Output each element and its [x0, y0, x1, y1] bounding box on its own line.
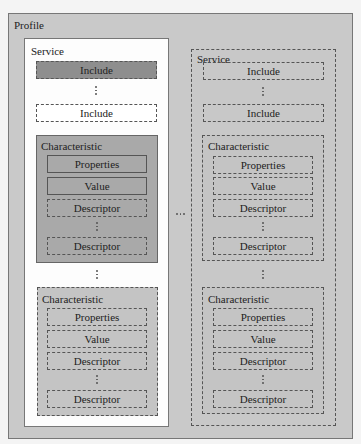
vertical-ellipsis-icon — [262, 270, 264, 281]
value-label: Value — [84, 180, 109, 192]
descriptor-box: Descriptor — [47, 390, 147, 408]
value-box: Value — [213, 177, 313, 195]
descriptor-label: Descriptor — [240, 355, 286, 367]
descriptor-label: Descriptor — [74, 393, 120, 405]
descriptor-box: Descriptor — [213, 352, 313, 370]
properties-label: Properties — [75, 158, 120, 170]
include-label: Include — [247, 65, 280, 77]
properties-label: Properties — [241, 311, 286, 323]
properties-box: Properties — [213, 308, 313, 326]
properties-box: Properties — [47, 155, 147, 173]
descriptor-label: Descriptor — [240, 393, 286, 405]
characteristic-label: Characteristic — [42, 293, 103, 305]
properties-box: Properties — [47, 308, 147, 326]
characteristic-label: Characteristic — [41, 140, 102, 152]
vertical-ellipsis-icon — [96, 375, 98, 386]
vertical-ellipsis-icon — [95, 86, 97, 97]
properties-box: Properties — [213, 156, 313, 174]
left-service-label: Service — [31, 45, 64, 57]
right-include-2: Include — [203, 104, 324, 122]
right-include-1: Include — [203, 62, 324, 80]
profile-label: Profile — [14, 19, 44, 31]
value-box: Value — [47, 177, 147, 195]
descriptor-box: Descriptor — [47, 352, 147, 370]
include-label: Include — [80, 107, 113, 119]
descriptor-box: Descriptor — [47, 237, 147, 255]
value-label: Value — [250, 180, 275, 192]
vertical-ellipsis-icon — [96, 222, 98, 233]
characteristic-label: Characteristic — [208, 140, 269, 152]
value-label: Value — [250, 333, 275, 345]
descriptor-box: Descriptor — [213, 199, 313, 217]
left-include-2: Include — [36, 104, 157, 122]
properties-label: Properties — [75, 311, 120, 323]
descriptor-label: Descriptor — [240, 240, 286, 252]
horizontal-ellipsis-icon — [176, 213, 185, 215]
vertical-ellipsis-icon — [262, 87, 264, 98]
value-box: Value — [213, 330, 313, 348]
vertical-ellipsis-icon — [262, 375, 264, 386]
include-label: Include — [247, 107, 280, 119]
include-label: Include — [80, 64, 113, 76]
descriptor-label: Descriptor — [74, 355, 120, 367]
vertical-ellipsis-icon — [262, 222, 264, 233]
descriptor-label: Descriptor — [240, 202, 286, 214]
descriptor-box: Descriptor — [213, 390, 313, 408]
descriptor-label: Descriptor — [74, 202, 120, 214]
characteristic-label: Characteristic — [208, 293, 269, 305]
vertical-ellipsis-icon — [96, 270, 98, 281]
descriptor-label: Descriptor — [74, 240, 120, 252]
properties-label: Properties — [241, 159, 286, 171]
left-include-1: Include — [36, 61, 157, 79]
descriptor-box: Descriptor — [47, 199, 147, 217]
value-box: Value — [47, 330, 147, 348]
descriptor-box: Descriptor — [213, 237, 313, 255]
value-label: Value — [84, 333, 109, 345]
